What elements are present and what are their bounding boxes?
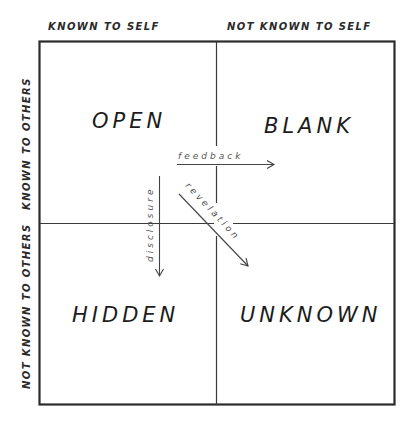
revelation-label: revelation (184, 181, 243, 243)
disclosure-label: disclosure (145, 187, 155, 263)
column-header-known-to-self: KNOWN TO SELF (48, 21, 160, 32)
quadrant-open: OPEN (92, 109, 166, 133)
quadrant-hidden: HIDDEN (72, 303, 179, 327)
johari-window-diagram: KNOWN TO SELF NOT KNOWN TO SELF KNOWN TO… (0, 0, 417, 425)
quadrant-blank: BLANK (264, 114, 354, 138)
row-header-known-to-others: KNOWN TO OTHERS (21, 77, 32, 210)
column-header-not-known-to-self: NOT KNOWN TO SELF (227, 21, 372, 32)
feedback-label: feedback (178, 151, 243, 161)
row-header-not-known-to-others: NOT KNOWN TO OTHERS (21, 223, 32, 389)
quadrant-unknown: UNKNOWN (240, 303, 382, 327)
